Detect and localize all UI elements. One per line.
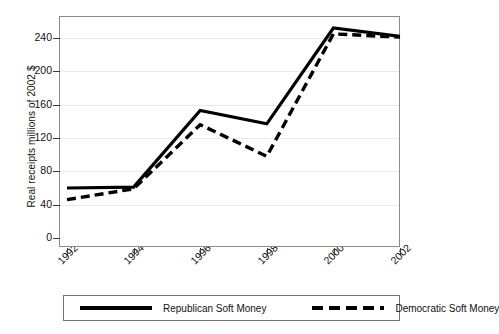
x-tick-mark-1996 — [200, 248, 201, 255]
x-tick-mark-1998 — [267, 248, 268, 255]
y-tick-label-120: 120 — [10, 131, 52, 143]
solid-line-swatch-icon — [80, 306, 152, 310]
y-tick-label-240: 240 — [10, 31, 52, 43]
legend-label-republican: Republican Soft Money — [163, 303, 266, 314]
x-tick-mark-2002 — [400, 248, 401, 255]
legend-label-democratic: Democratic Soft Money — [395, 303, 499, 314]
x-tick-mark-1994 — [134, 248, 135, 255]
x-tick-mark-1992 — [67, 248, 68, 255]
republican-soft-money-line — [67, 28, 400, 188]
y-tick-mark-120 — [53, 138, 60, 139]
y-tick-mark-240 — [53, 38, 60, 39]
y-tick-label-200: 200 — [10, 64, 52, 76]
dashed-line-swatch-icon — [312, 306, 384, 310]
y-tick-label-160: 160 — [10, 98, 52, 110]
legend-entry-democratic: Democratic Soft Money — [312, 303, 499, 314]
y-tick-mark-0 — [53, 238, 60, 239]
series-lines — [60, 17, 401, 248]
y-tick-mark-160 — [53, 105, 60, 106]
y-tick-mark-200 — [53, 71, 60, 72]
plot-area — [59, 16, 400, 247]
legend-entry-republican: Republican Soft Money — [80, 303, 266, 314]
y-tick-label-40: 40 — [10, 198, 52, 210]
y-tick-mark-40 — [53, 205, 60, 206]
y-tick-label-0: 0 — [10, 231, 52, 243]
chart-legend: Republican Soft Money Democratic Soft Mo… — [63, 295, 400, 321]
x-tick-mark-2000 — [334, 248, 335, 255]
y-tick-label-80: 80 — [10, 164, 52, 176]
y-tick-mark-80 — [53, 171, 60, 172]
